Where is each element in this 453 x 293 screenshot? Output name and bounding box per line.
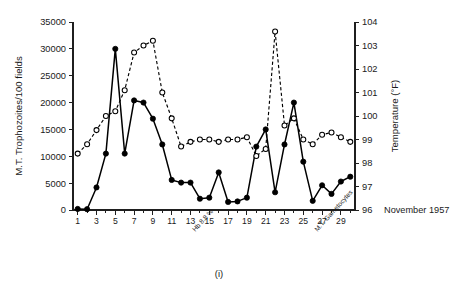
data-point [235, 199, 240, 204]
data-point [244, 195, 249, 200]
data-point [207, 137, 212, 142]
data-point [197, 196, 202, 201]
data-point [132, 50, 137, 55]
data-point [94, 185, 99, 190]
x-axis-tick-label: 17 [223, 216, 233, 226]
y-axis-right-tick-label: 100 [362, 111, 378, 121]
data-point [103, 151, 108, 156]
series-layer [75, 29, 353, 212]
y-axis-right-tick-label: 101 [362, 88, 378, 98]
x-axis-tick-label: 21 [261, 216, 271, 226]
data-point [179, 180, 184, 185]
data-point [348, 139, 353, 144]
data-point [226, 199, 231, 204]
y-axis-right-tick-label: 99 [362, 135, 372, 145]
x-axis-tick-label: 29 [336, 216, 346, 226]
data-point [291, 100, 296, 105]
data-point [348, 174, 353, 179]
data-point [216, 170, 221, 175]
y-axis-left-tick-label: 30000 [40, 44, 66, 54]
x-axis-tick-label: 7 [132, 216, 137, 226]
data-point [150, 38, 155, 43]
data-point [113, 46, 118, 51]
data-point [301, 137, 306, 142]
x-axis-tick-label: 19 [242, 216, 252, 226]
data-point [338, 179, 343, 184]
data-point [226, 137, 231, 142]
data-point [160, 90, 165, 95]
data-point [122, 88, 127, 93]
data-point [329, 130, 334, 135]
y-axis-left-tick-label: 10000 [40, 152, 66, 162]
x-axis-tick-label: 9 [151, 216, 156, 226]
y-axis-left-tick-label: 15000 [40, 125, 66, 135]
y-axis-right-tick-label: 103 [362, 41, 378, 51]
data-point [301, 159, 306, 164]
data-point [150, 116, 155, 121]
data-point [94, 128, 99, 133]
data-point [207, 195, 212, 200]
y-axis-right-tick-label: 96 [362, 205, 372, 215]
data-point [320, 183, 325, 188]
data-point [122, 151, 127, 156]
data-point [254, 153, 259, 158]
data-point [329, 191, 334, 196]
x-axis-tick-label: 3 [94, 216, 99, 226]
data-point [235, 137, 240, 142]
axes-layer: 0500010000150002000025000300003500096979… [40, 17, 377, 225]
data-point [85, 207, 90, 212]
data-point [197, 137, 202, 142]
data-point [263, 146, 268, 151]
x-axis-tick-label: 1 [75, 216, 80, 226]
chart-figure: 0500010000150002000025000300003500096979… [0, 0, 453, 293]
data-point [291, 116, 296, 121]
data-point [254, 144, 259, 149]
y-axis-left-tick-label: 35000 [40, 17, 66, 27]
data-point [160, 142, 165, 147]
y-axis-left-tick-label: 20000 [40, 98, 66, 108]
data-point [85, 142, 90, 147]
x-axis-tick-label: 5 [113, 216, 118, 226]
data-point [282, 123, 287, 128]
data-point [216, 139, 221, 144]
data-point [188, 139, 193, 144]
y-axis-left-tick-label: 0 [61, 205, 66, 215]
data-point [310, 142, 315, 147]
data-point [310, 198, 315, 203]
y-axis-right-tick-label: 97 [362, 182, 372, 192]
y-axis-left-tick-label: 25000 [40, 71, 66, 81]
series-line-1 [78, 49, 351, 209]
data-point [320, 132, 325, 137]
data-point [132, 98, 137, 103]
data-point [338, 135, 343, 140]
data-point [141, 100, 146, 105]
x-axis-tick-label: 23 [280, 216, 290, 226]
x-axis-tick-label: 25 [299, 216, 309, 226]
data-point [169, 116, 174, 121]
y-axis-right-tick-label: 102 [362, 64, 378, 74]
data-point [273, 29, 278, 34]
y-axis-right-tick-label: 98 [362, 158, 372, 168]
data-point [75, 151, 80, 156]
data-point [179, 144, 184, 149]
data-point [103, 114, 108, 119]
data-point [188, 180, 193, 185]
data-point [113, 109, 118, 114]
data-point [244, 135, 249, 140]
chart-canvas: 0500010000150002000025000300003500096979… [0, 0, 453, 293]
data-point [169, 177, 174, 182]
y-axis-left-tick-label: 5000 [45, 179, 66, 189]
data-point [141, 43, 146, 48]
y-axis-right-tick-label: 104 [362, 17, 378, 27]
data-point [282, 142, 287, 147]
data-point [273, 190, 278, 195]
x-axis-tick-label: 11 [167, 216, 176, 226]
data-point [75, 206, 80, 211]
